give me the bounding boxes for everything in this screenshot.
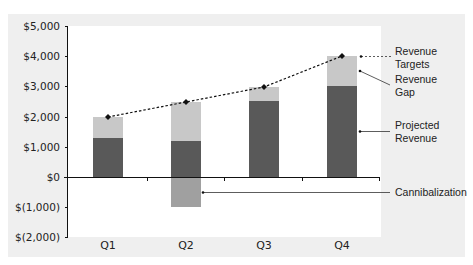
revenue-target-markers — [105, 53, 345, 120]
bars-revenue-gap — [93, 56, 357, 141]
bar-q2-gap — [171, 102, 201, 141]
bar-q2-projected — [171, 141, 201, 177]
revenue-targets-line — [108, 56, 342, 117]
bar-q1-gap — [93, 117, 123, 138]
bar-q3-projected — [249, 101, 279, 177]
annotation-revenue-gap: Revenue Gap — [395, 73, 437, 98]
bars-projected-revenue — [93, 86, 357, 177]
annotation-revenue-targets: Revenue Targets — [395, 45, 437, 70]
bar-q1-projected — [93, 138, 123, 177]
annotation-projected-revenue: Projected Revenue — [395, 119, 439, 144]
bar-q2-cannibalization — [171, 177, 201, 207]
bar-q4-projected — [327, 86, 357, 177]
annotation-cannibalization: Cannibalization — [395, 186, 467, 199]
leader-gap — [360, 71, 390, 85]
